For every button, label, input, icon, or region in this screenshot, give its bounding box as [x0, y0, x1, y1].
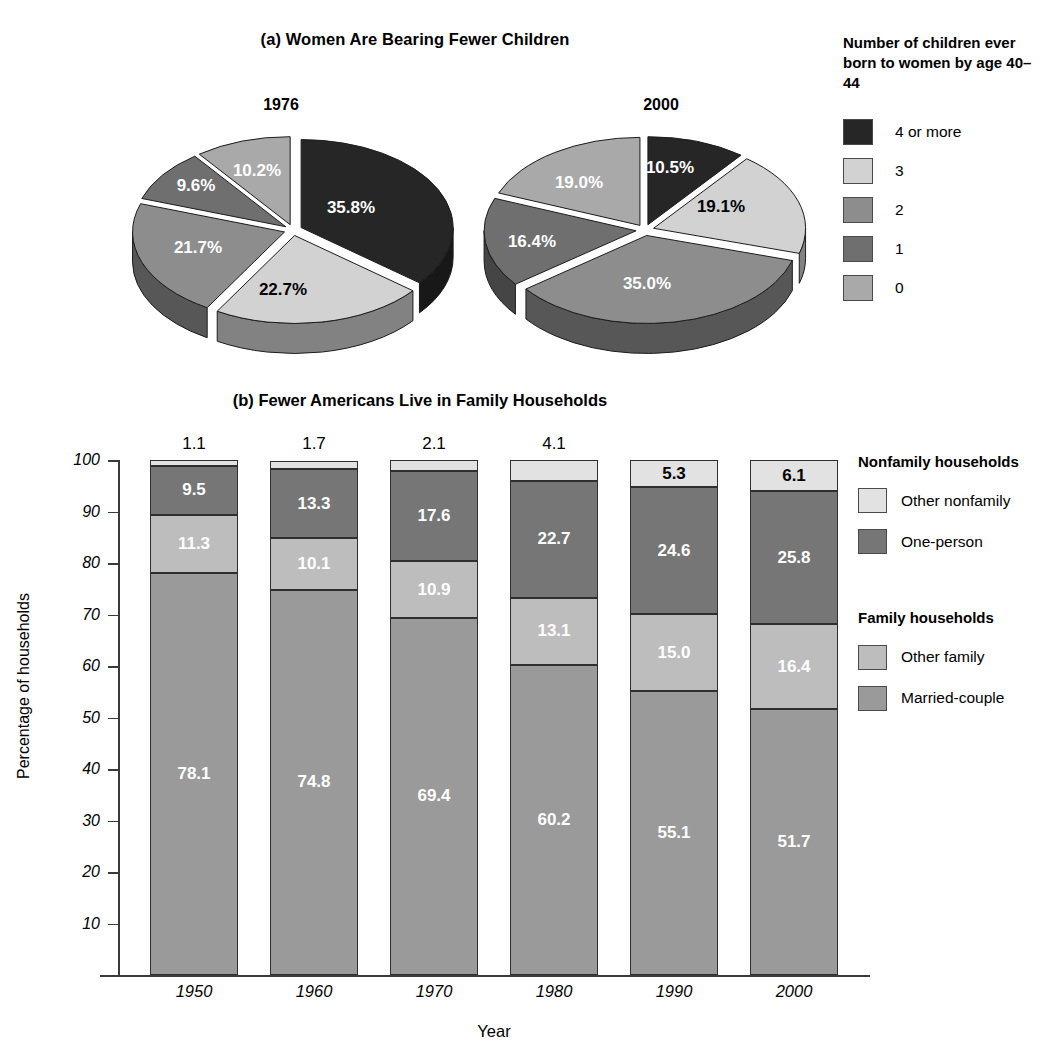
pie-legend-item-1[interactable]: 1 [843, 230, 1038, 269]
bar-segment-value-label: 25.8 [750, 548, 838, 568]
bar-segment-value-label: 78.1 [150, 764, 238, 784]
bar-segment-value-label: 10.1 [270, 554, 358, 574]
y-axis-tick [108, 460, 119, 462]
y-axis-tick-label: 30 [28, 812, 100, 830]
bar-legend-label-one-person: One-person [901, 533, 983, 551]
bar-segment-value-label: 13.1 [510, 621, 598, 641]
bar-segment-value-label: 15.0 [630, 643, 718, 663]
bar-segment-value-label: 5.3 [630, 464, 718, 484]
y-axis-tick [108, 924, 119, 926]
bar-segment-value-label: 69.4 [390, 786, 478, 806]
pie-chart-1976: 35.8%22.7%21.7%9.6%10.2% [118, 126, 468, 366]
pie-legend-label-0: 0 [895, 279, 904, 297]
bar-column[interactable]: 69.410.917.62.1 [390, 460, 478, 975]
pie-legend-swatch-1 [843, 236, 873, 262]
legend-spacer [858, 554, 1040, 608]
bar-segment-value-label: 16.4 [750, 657, 838, 677]
pie-legend-swatch-0 [843, 275, 873, 301]
pie-legend-item-3[interactable]: 3 [843, 152, 1038, 191]
y-axis-tick [108, 666, 119, 668]
pie-legend-label-2: 2 [895, 201, 904, 219]
bar-segment-value-label: 11.3 [150, 534, 238, 554]
x-axis-title: Year [118, 1022, 870, 1041]
bar-column[interactable]: 60.213.122.74.1 [510, 460, 598, 975]
pie-legend-item-0[interactable]: 0 [843, 269, 1038, 308]
bar-segment-value-label: 1.1 [150, 434, 238, 454]
y-axis-tick-label: 40 [28, 760, 100, 778]
bar-legend: Nonfamily households Other nonfamily One… [858, 452, 1040, 711]
bar-column[interactable]: 51.716.425.86.1 [750, 460, 838, 975]
x-axis-tick-label: 1950 [134, 982, 254, 1001]
bar-segment-value-label: 24.6 [630, 541, 718, 561]
panel-b-title: (b) Fewer Americans Live in Family House… [0, 391, 840, 410]
y-axis-tick [108, 718, 119, 720]
bar-segment-value-label: 51.7 [750, 832, 838, 852]
bar-segment[interactable] [510, 460, 598, 481]
bar-segment-value-label: 1.7 [270, 434, 358, 454]
bar-segment-value-label: 6.1 [750, 466, 838, 486]
bar-legend-swatch-one-person [858, 529, 887, 554]
bar-segment-value-label: 4.1 [510, 434, 598, 454]
bar-legend-item-one-person[interactable]: One-person [858, 529, 1040, 554]
bar-segment-value-label: 17.6 [390, 506, 478, 526]
bar-segment-value-label: 13.3 [270, 494, 358, 514]
bar-segment-value-label: 55.1 [630, 823, 718, 843]
x-axis-line [100, 975, 870, 977]
bar-segment-value-label: 9.5 [150, 480, 238, 500]
bar-legend-group-family-title: Family households [858, 608, 1040, 628]
y-axis-tick [108, 512, 119, 514]
bar-legend-label-other-nonfamily: Other nonfamily [901, 492, 1010, 510]
bar-segment[interactable] [270, 461, 358, 470]
pie-title-2000: 2000 [601, 96, 721, 114]
y-axis-tick [108, 872, 119, 874]
y-axis-tick-label: 100 [28, 451, 100, 469]
bar-legend-swatch-married-couple [858, 686, 887, 711]
figure-root: (a) Women Are Bearing Fewer Children 197… [0, 0, 1040, 1054]
panel-a-title: (a) Women Are Bearing Fewer Children [0, 30, 830, 49]
bar-segment-value-label: 2.1 [390, 434, 478, 454]
y-axis-tick [108, 615, 119, 617]
y-axis-tick-label: 80 [28, 554, 100, 572]
y-axis-tick-label: 10 [28, 915, 100, 933]
bar-segment[interactable] [390, 460, 478, 471]
y-axis-tick [108, 769, 119, 771]
y-axis-tick-label: 90 [28, 503, 100, 521]
pie-legend-label-3: 3 [895, 162, 904, 180]
stacked-bar-chart: Percentage of households 102030405060708… [0, 430, 880, 1030]
x-axis-tick-label: 1980 [494, 982, 614, 1001]
y-axis-tick-label: 20 [28, 863, 100, 881]
pie-legend: Number of children ever born to women by… [843, 33, 1038, 308]
bar-segment-value-label: 10.9 [390, 580, 478, 600]
bar-column[interactable]: 78.111.39.51.1 [150, 460, 238, 975]
y-axis-tick-label: 60 [28, 657, 100, 675]
pie-legend-label-4-or-more: 4 or more [895, 123, 961, 141]
bar-legend-item-married-couple[interactable]: Married-couple [858, 686, 1040, 711]
y-axis-tick [108, 563, 119, 565]
bar-legend-group-nonfamily-title: Nonfamily households [858, 452, 1040, 472]
pie-legend-item-4-or-more[interactable]: 4 or more [843, 113, 1038, 152]
pie-legend-swatch-3 [843, 158, 873, 184]
bar-legend-item-other-family[interactable]: Other family [858, 645, 1040, 670]
bar-column[interactable]: 55.115.024.65.3 [630, 460, 718, 975]
x-axis-tick-label: 1970 [374, 982, 494, 1001]
bar-legend-swatch-other-nonfamily [858, 488, 887, 513]
bar-legend-label-other-family: Other family [901, 648, 985, 666]
bar-segment-value-label: 74.8 [270, 772, 358, 792]
pie-legend-label-1: 1 [895, 240, 904, 258]
y-axis-title: Percentage of households [15, 476, 33, 896]
x-axis-tick-label: 1990 [614, 982, 734, 1001]
y-axis-tick [108, 821, 119, 823]
x-axis-tick-label: 2000 [734, 982, 854, 1001]
bar-segment-value-label: 60.2 [510, 810, 598, 830]
pie-legend-item-2[interactable]: 2 [843, 191, 1038, 230]
pie-legend-swatch-4-or-more [843, 119, 873, 145]
bar-segment[interactable] [150, 460, 238, 466]
bar-legend-item-other-nonfamily[interactable]: Other nonfamily [858, 488, 1040, 513]
bar-column[interactable]: 74.810.113.31.7 [270, 460, 358, 975]
y-axis-tick-label: 70 [28, 606, 100, 624]
bar-legend-label-married-couple: Married-couple [901, 689, 1004, 707]
bar-legend-swatch-other-family [858, 645, 887, 670]
bar-segment-value-label: 22.7 [510, 529, 598, 549]
pie-title-1976: 1976 [221, 96, 341, 114]
pie-chart-2000: 10.5%19.1%35.0%16.4%19.0% [470, 126, 820, 366]
